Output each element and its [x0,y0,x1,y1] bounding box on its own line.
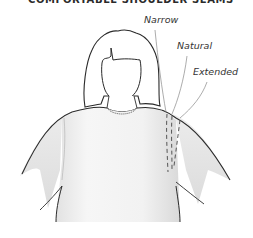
neck [107,96,137,112]
label-natural: Natural [177,40,212,51]
sweater [20,107,230,222]
label-narrow: Narrow [144,14,178,25]
label-extended: Extended [193,66,238,77]
sweater-figure-illustration [0,0,253,238]
